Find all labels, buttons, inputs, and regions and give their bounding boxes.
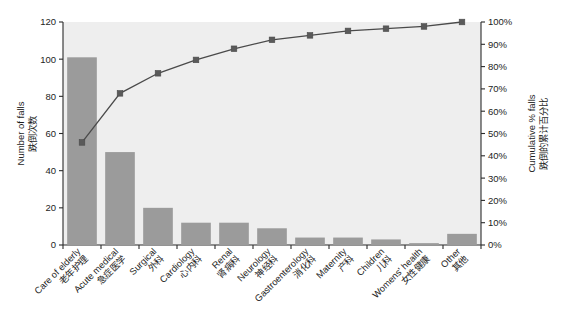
bar-1 [67,57,97,245]
y-axis-left-tick-label: 60 [45,128,56,139]
y-axis-right-tick-label: 30% [488,173,508,184]
bar-3 [143,208,173,245]
y-axis-left-title-en: Number of falls [15,101,26,165]
cumulative-marker-3 [155,70,161,76]
y-axis-left-title-zh: 跌倒次数 [27,115,38,152]
y-axis-right-tick-label: 0% [488,239,502,250]
y-axis-left-tick-label: 0 [51,239,56,250]
bar-5 [219,223,249,245]
pareto-chart: 0204060801001200%10%20%30%40%50%60%70%80… [0,0,573,327]
bar-2 [105,152,135,245]
x-axis-category-4: Cardiology心内科 [158,246,204,292]
cumulative-marker-8 [345,28,351,34]
bar-6 [257,228,287,245]
chart-canvas: 0204060801001200%10%20%30%40%50%60%70%80… [0,0,573,327]
bar-8 [333,238,363,245]
y-axis-right-tick-label: 10% [488,217,508,228]
bar-10 [409,243,439,245]
y-axis-right-tick-label: 70% [488,83,508,94]
x-axis-category-1: Care of elderly老年护理 [33,246,90,303]
cumulative-marker-1 [79,140,85,146]
y-axis-left-tick-label: 20 [45,202,56,213]
x-axis-category-11: Other其他 [439,246,470,277]
y-axis-left-tick-label: 80 [45,91,56,102]
cumulative-marker-6 [269,37,275,43]
y-axis-right-title-zh: 跌倒的累计百分比 [538,98,549,170]
cumulative-marker-9 [383,26,389,32]
cumulative-marker-4 [193,57,199,63]
y-axis-right-tick-label: 90% [488,39,508,50]
y-axis-right-tick-label: 80% [488,61,508,72]
cumulative-marker-10 [421,24,427,30]
y-axis-left-tick-label: 40 [45,165,56,176]
y-axis-right-tick-label: 100% [488,16,513,27]
x-axis-category-8: Maternity产科 [314,246,356,288]
bar-4 [181,223,211,245]
bar-9 [371,239,401,245]
bar-11 [447,234,477,245]
cumulative-marker-5 [231,46,237,52]
cumulative-marker-11 [459,19,465,25]
y-axis-right-tick-label: 60% [488,106,508,117]
y-axis-left-tick-label: 100 [40,54,56,65]
y-axis-right-tick-label: 50% [488,128,508,139]
y-axis-right-tick-label: 40% [488,150,508,161]
bar-7 [295,238,325,245]
cumulative-marker-7 [307,33,313,39]
y-axis-right-tick-label: 20% [488,195,508,206]
y-axis-right-title-en: Cumulative % falls [526,94,537,172]
y-axis-left-tick-label: 120 [40,16,56,27]
cumulative-marker-2 [117,91,123,97]
